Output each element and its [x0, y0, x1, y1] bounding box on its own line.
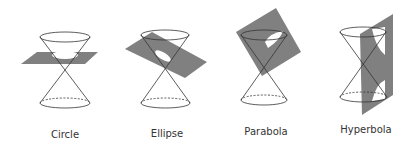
conic-sections-diagram: Circle Ellipse Parabola Hyperbola	[0, 0, 415, 152]
circle-double-cone	[40, 32, 90, 108]
ellipse-figure	[125, 30, 207, 108]
circle-figure	[21, 32, 98, 108]
label-ellipse: Ellipse	[151, 128, 183, 139]
hyperbola-figure	[340, 14, 393, 115]
parabola-figure	[236, 8, 301, 105]
label-parabola: Parabola	[244, 126, 287, 137]
label-hyperbola: Hyperbola	[340, 124, 391, 135]
label-circle: Circle	[51, 129, 79, 140]
